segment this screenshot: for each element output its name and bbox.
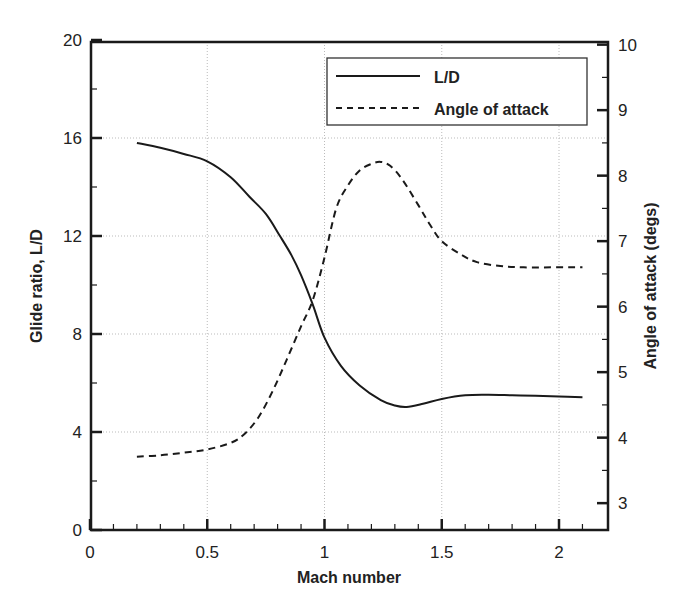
y2-tick-label: 6	[618, 298, 627, 317]
legend-label-aoa: Angle of attack	[434, 101, 549, 118]
y2-tick-label: 9	[618, 101, 627, 120]
x-tick-label: 0	[85, 543, 94, 562]
plot-curves	[137, 143, 583, 457]
x-tick-label: 0.5	[195, 543, 219, 562]
y-tick-label: 16	[63, 129, 82, 148]
legend-label-ld: L/D	[434, 69, 460, 86]
y-axis-title: Glide ratio, L/D	[28, 229, 45, 343]
y-tick-label: 4	[73, 423, 82, 442]
x-tick-label: 1.5	[430, 543, 454, 562]
ld-curve	[137, 143, 583, 407]
x-axis-title: Mach number	[297, 569, 401, 586]
y2-tick-label: 4	[618, 429, 627, 448]
y-tick-label: 8	[73, 325, 82, 344]
angle-of-attack-curve	[137, 162, 583, 457]
y2-tick-label: 8	[618, 167, 627, 186]
chart: 00.511.52048121620345678910 Mach number …	[0, 0, 687, 615]
x-tick-label: 2	[554, 543, 563, 562]
y-tick-label: 12	[63, 227, 82, 246]
y2-tick-label: 7	[618, 232, 627, 251]
legend: L/D Angle of attack	[327, 58, 587, 125]
y2-axis-title: Angle of attack (degs)	[642, 202, 659, 369]
y-tick-label: 20	[63, 31, 82, 50]
y2-tick-label: 10	[618, 36, 637, 55]
y2-tick-label: 3	[618, 494, 627, 513]
x-tick-label: 1	[320, 543, 329, 562]
y-tick-label: 0	[73, 521, 82, 540]
y2-tick-label: 5	[618, 363, 627, 382]
